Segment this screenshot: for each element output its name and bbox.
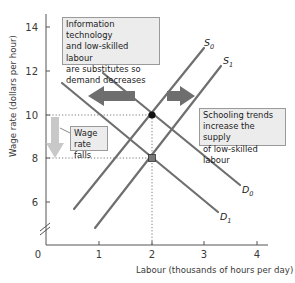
initial-equilibrium-point [148, 111, 155, 118]
x-tick-4: 4 [254, 249, 260, 260]
x-tick-2: 2 [149, 249, 155, 260]
label-d1: D1 [220, 211, 231, 225]
y-tick-labels: 14 12 10 8 6 [25, 22, 38, 208]
new-equilibrium-point [149, 155, 156, 162]
supply-callout: Schooling trends increase the supply of … [199, 108, 286, 146]
wage-falls-arrow-icon [46, 117, 64, 158]
y-axis-title: Wage rate (dollars per hour) [8, 35, 18, 157]
label-s0: S0 [204, 37, 214, 51]
x-ticks [99, 241, 257, 245]
x-tick-labels: 0 1 2 3 4 [35, 249, 260, 260]
x-tick-0: 0 [35, 249, 41, 260]
y-tick-12: 12 [25, 66, 38, 77]
label-s1: S1 [223, 55, 233, 69]
demand-callout: Information technology and low-skilled l… [62, 17, 160, 65]
x-tick-1: 1 [96, 249, 102, 260]
y-tick-14: 14 [25, 22, 38, 33]
demand-shift-arrow-icon [88, 86, 135, 106]
y-tick-6: 6 [32, 197, 38, 208]
label-d0: D0 [242, 184, 253, 198]
x-axis-title: Labour (thousands of hours per day) [136, 265, 293, 275]
axis-break-icon [40, 223, 50, 235]
y-tick-10: 10 [25, 110, 38, 121]
wage-callout: Wage rate falls [70, 126, 108, 151]
x-tick-3: 3 [201, 249, 207, 260]
y-tick-8: 8 [32, 153, 38, 164]
wage-callout-leader [60, 128, 70, 133]
y-ticks [46, 27, 50, 202]
